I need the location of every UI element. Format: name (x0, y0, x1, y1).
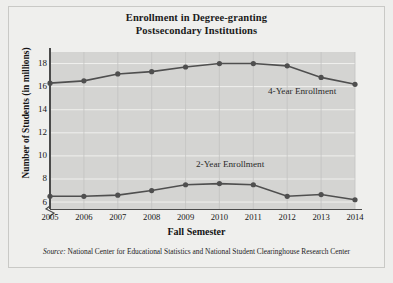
y-tick-8: 8 (25, 173, 47, 183)
data-series-layer (50, 52, 355, 209)
chart-figure: Enrollment in Degree-granting Postsecond… (0, 0, 393, 283)
x-tick-2006: 2006 (67, 212, 101, 222)
x-tick-2012: 2012 (270, 212, 304, 222)
x-tick-2011: 2011 (236, 212, 270, 222)
chart-title: Enrollment in Degree-granting Postsecond… (0, 12, 393, 37)
y-tick-14: 14 (25, 104, 47, 114)
y-tick-10: 10 (25, 150, 47, 160)
source-text: National Center for Educational Statisti… (66, 247, 350, 256)
x-tick-2009: 2009 (169, 212, 203, 222)
y-axis-line (49, 48, 51, 209)
annotation-4-year-enrollment: 4-Year Enrollment (268, 86, 336, 96)
y-tick-labels: 6 8 10 12 14 16 18 (22, 0, 47, 283)
y-tick-16: 16 (25, 81, 47, 91)
chart-title-line2: Postsecondary Institutions (0, 25, 393, 38)
x-tick-2008: 2008 (135, 212, 169, 222)
chart-title-line1: Enrollment in Degree-granting (126, 12, 267, 23)
x-axis-title: Fall Semester (0, 226, 393, 237)
y-tick-18: 18 (25, 58, 47, 68)
x-tick-2005: 2005 (33, 212, 67, 222)
x-tick-2007: 2007 (101, 212, 135, 222)
source-note: Source: National Center for Educational … (0, 247, 393, 256)
series-4-year-enrollment (47, 61, 357, 87)
x-tick-2013: 2013 (304, 212, 338, 222)
x-tick-2010: 2010 (202, 212, 236, 222)
source-label: Source: (43, 247, 66, 256)
series-2-year-enrollment (47, 181, 357, 202)
x-tick-2014: 2014 (338, 212, 372, 222)
annotation-2-year-enrollment: 2-Year Enrollment (196, 159, 264, 169)
plot-area: 4-Year Enrollment 2-Year Enrollment (50, 52, 355, 209)
x-axis-line (50, 209, 362, 210)
y-tick-12: 12 (25, 127, 47, 137)
